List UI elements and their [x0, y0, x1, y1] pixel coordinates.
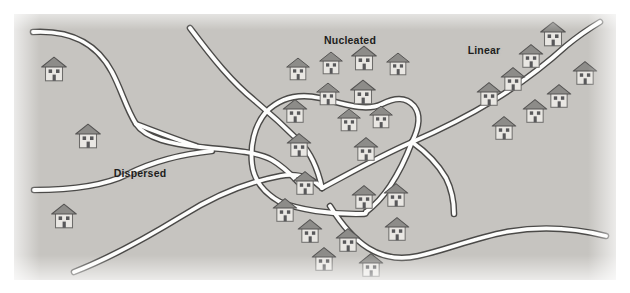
settlement-pattern-diagram: DispersedNucleatedLinear — [0, 0, 630, 293]
map-canvas — [0, 0, 630, 293]
